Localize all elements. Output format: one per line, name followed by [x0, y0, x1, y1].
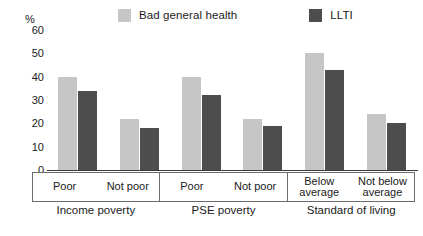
y-axis-tick-60: 60 — [0, 25, 44, 36]
bar-bad-general-health — [120, 119, 139, 170]
bar-pair — [234, 30, 291, 170]
category-group-2: PoorNot poor — [159, 173, 286, 201]
bar-pair — [111, 30, 168, 170]
bar-bad-general-health — [243, 119, 262, 170]
bar-llti — [263, 126, 282, 170]
bar-llti — [140, 128, 159, 170]
category-label: Not belowaverage — [351, 173, 414, 201]
bar-llti — [387, 123, 406, 170]
category-label: Not poor — [96, 173, 159, 201]
bar-group-3 — [294, 30, 417, 170]
category-label: Poor — [160, 173, 223, 201]
bar-pair — [49, 30, 106, 170]
legend-entry-bad-general-health: Bad general health — [118, 9, 237, 22]
category-group-1: PoorNot poor — [33, 173, 159, 201]
bar-bad-general-health — [182, 77, 201, 170]
category-label-line: average — [363, 187, 403, 199]
category-group-3: BelowaverageNot belowaverage — [287, 173, 414, 201]
x-axis-baseline — [47, 170, 418, 171]
bar-pair — [358, 30, 415, 170]
category-label-line: Not poor — [107, 181, 149, 193]
category-label: Not poor — [224, 173, 287, 201]
category-label-box: PoorNot poorPoorNot poorBelowaverageNot … — [32, 172, 415, 202]
y-axis-tick-30: 30 — [0, 95, 44, 106]
legend-entry-llti: LLTI — [309, 9, 353, 22]
bar-llti — [202, 95, 221, 170]
legend-swatch-bad-general-health — [118, 9, 131, 22]
legend-label-bad-general-health: Bad general health — [139, 10, 237, 22]
category-label-line: Poor — [53, 181, 76, 193]
bar-pair — [296, 30, 353, 170]
category-label-line: Not poor — [234, 181, 276, 193]
y-axis-tick-50: 50 — [0, 48, 44, 59]
group-title-2: PSE poverty — [160, 205, 288, 217]
y-axis-tick-10: 10 — [0, 141, 44, 152]
bar-bad-general-health — [58, 77, 77, 170]
bar-bad-general-health — [305, 53, 324, 170]
group-title-row: Income povertyPSE povertyStandard of liv… — [32, 205, 415, 217]
group-title-3: Standard of living — [287, 205, 415, 217]
chart-legend: Bad general health LLTI — [118, 9, 353, 22]
plot-area — [47, 30, 417, 170]
bar-group-1 — [47, 30, 170, 170]
category-label-line: average — [299, 187, 339, 199]
category-label: Poor — [33, 173, 96, 201]
group-title-1: Income poverty — [32, 205, 160, 217]
category-label-line: Poor — [180, 181, 203, 193]
y-axis-tick-20: 20 — [0, 118, 44, 129]
legend-label-llti: LLTI — [330, 10, 353, 22]
bar-llti — [78, 91, 97, 170]
bar-bad-general-health — [367, 114, 386, 170]
bar-pair — [173, 30, 230, 170]
legend-swatch-llti — [309, 9, 322, 22]
bar-chart: Bad general health LLTI % 6050403020100 … — [0, 0, 423, 236]
bar-llti — [325, 70, 344, 170]
y-axis-tick-40: 40 — [0, 71, 44, 82]
bar-group-2 — [170, 30, 293, 170]
category-label: Belowaverage — [288, 173, 351, 201]
